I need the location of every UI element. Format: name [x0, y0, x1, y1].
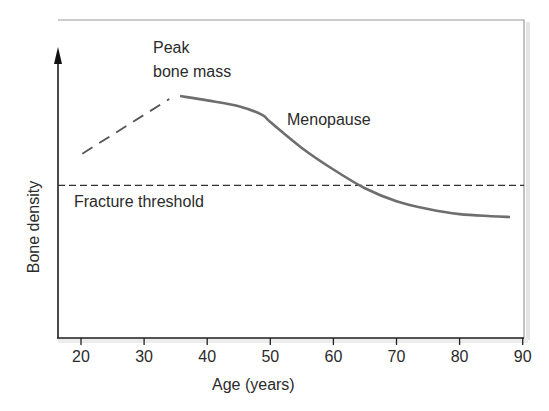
x-tick-label: 60 [324, 348, 342, 366]
x-tick-label: 80 [451, 348, 469, 366]
x-axis-title: Age (years) [212, 375, 295, 394]
bone-accrual-line [82, 99, 169, 154]
peak-label-line1: Peak [153, 38, 189, 57]
x-tick-label: 30 [135, 348, 153, 366]
x-tick-label: 90 [514, 348, 532, 366]
x-tick-label: 40 [198, 348, 216, 366]
x-tick-label: 20 [72, 348, 90, 366]
fracture-threshold-label: Fracture threshold [74, 192, 204, 211]
x-tick-label: 50 [261, 348, 279, 366]
peak-label-line2: bone mass [153, 62, 231, 81]
menopause-label: Menopause [287, 110, 371, 129]
plot-frame [58, 20, 524, 338]
frame-shadow [526, 22, 530, 340]
y-axis-title: Bone density [25, 167, 43, 287]
y-axis-arrow-icon [54, 47, 62, 64]
x-tick-label: 70 [388, 348, 406, 366]
